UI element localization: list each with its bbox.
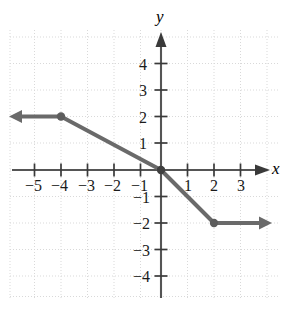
y-axis [156, 32, 167, 298]
y-tick-label--4: −4 [133, 269, 150, 285]
x-tick-label-2: 2 [210, 178, 218, 194]
point-marker [210, 219, 218, 227]
y-axis-label: y [156, 8, 164, 25]
point-marker [57, 112, 65, 120]
y-tick-label-4: 4 [139, 57, 147, 73]
x-tick-label--4: −4 [51, 178, 68, 194]
point-marker [157, 166, 165, 174]
x-tick-label-1: 1 [184, 178, 192, 194]
coordinate-plane-svg [0, 0, 288, 311]
y-tick-label-1: 1 [139, 136, 147, 152]
y-tick-label--3: −3 [133, 243, 150, 259]
left-arrowhead [9, 110, 22, 123]
y-tick-label--1: −1 [133, 190, 150, 206]
x-tick-label--2: −2 [104, 178, 121, 194]
right-arrowhead [259, 217, 272, 230]
x-tick-label--5: −5 [25, 178, 42, 194]
graph-figure: y x −5 −4 −3 −2 −1 1 2 3 4 3 2 1 −1 −2 −… [0, 0, 288, 311]
x-tick-label-3: 3 [237, 178, 245, 194]
x-axis-label: x [272, 160, 280, 177]
y-tick-label--2: −2 [133, 216, 150, 232]
x-tick-label--3: −3 [78, 178, 95, 194]
y-tick-label-3: 3 [139, 83, 147, 99]
y-tick-label-2: 2 [139, 110, 147, 126]
